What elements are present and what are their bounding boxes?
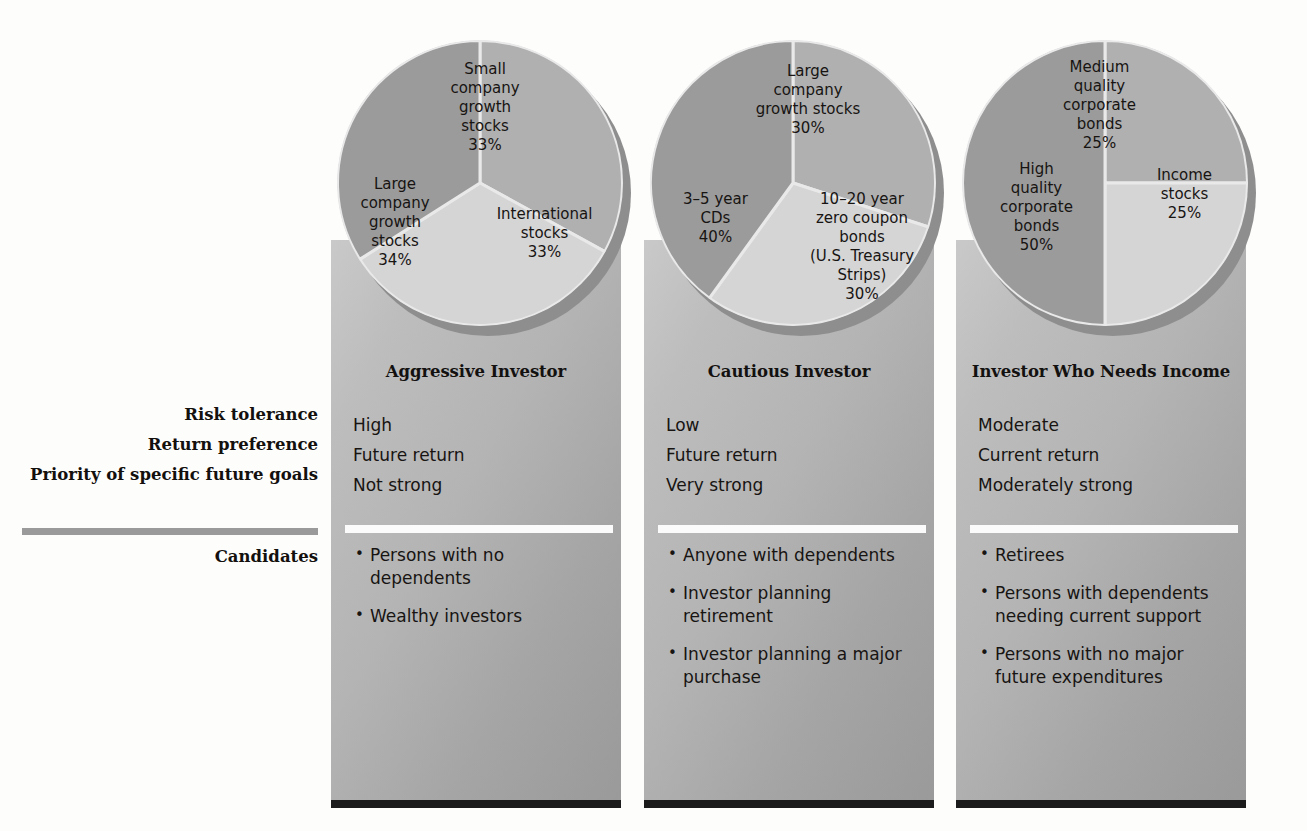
attribute-list-1: High Future return Not strong (353, 410, 607, 500)
panel-title-2: Cautious Investor (644, 362, 934, 381)
pie-label-1-a: Small company growth stocks 33% (430, 60, 540, 155)
row-label-group: Risk tolerance Return preference Priorit… (0, 400, 318, 490)
pie-label-group-3: Medium quality corporate bonds 25% Incom… (962, 40, 1248, 326)
pie-label-2-a: Large company growth stocks 30% (743, 62, 873, 138)
pie-label-3-a: Medium quality corporate bonds 25% (1042, 58, 1157, 153)
candidate-list-1: Persons with no dependents Wealthy inves… (355, 544, 609, 643)
value-return-preference-3: Current return (978, 440, 1232, 470)
list-item: Persons with no major future expenditure… (980, 643, 1234, 689)
pie-label-1-b: International stocks 33% (482, 205, 607, 262)
pie-label-group-2: Large company growth stocks 30% 10–20 ye… (650, 40, 936, 326)
attribute-list-3: Moderate Current return Moderately stron… (978, 410, 1232, 500)
list-item: Retirees (980, 544, 1234, 567)
panel-divider-3 (970, 525, 1238, 533)
row-label-return-preference: Return preference (0, 430, 318, 460)
row-label-risk-tolerance: Risk tolerance (0, 400, 318, 430)
row-label-divider (22, 528, 318, 535)
panel-title-3: Investor Who Needs Income (956, 362, 1246, 381)
list-item: Anyone with dependents (668, 544, 922, 567)
value-return-preference-2: Future return (666, 440, 920, 470)
pie-label-3-c: High quality corporate bonds 50% (984, 160, 1089, 255)
candidate-list-2: Anyone with dependents Investor planning… (668, 544, 922, 704)
row-label-priority: Priority of specific future goals (0, 460, 318, 490)
list-item: Persons with no dependents (355, 544, 609, 590)
list-item: Wealthy investors (355, 605, 609, 628)
list-item: Investor planning retirement (668, 582, 922, 628)
candidate-list-3: Retirees Persons with dependents needing… (980, 544, 1234, 704)
value-return-preference-1: Future return (353, 440, 607, 470)
value-priority-2: Very strong (666, 470, 920, 500)
value-risk-tolerance-2: Low (666, 410, 920, 440)
attribute-list-2: Low Future return Very strong (666, 410, 920, 500)
pie-label-2-b: 10–20 year zero coupon bonds (U.S. Treas… (798, 190, 926, 304)
pie-label-2-c: 3–5 year CDs 40% (663, 190, 768, 247)
panel-divider-1 (345, 525, 613, 533)
pie-label-3-b: Income stocks 25% (1137, 166, 1232, 223)
list-item: Investor planning a major purchase (668, 643, 922, 689)
figure-root: Risk tolerance Return preference Priorit… (0, 0, 1307, 831)
panel-title-1: Aggressive Investor (331, 362, 621, 381)
row-label-candidates: Candidates (0, 547, 318, 566)
value-priority-1: Not strong (353, 470, 607, 500)
pie-label-1-c: Large company growth stocks 34% (345, 175, 445, 270)
value-priority-3: Moderately strong (978, 470, 1232, 500)
value-risk-tolerance-3: Moderate (978, 410, 1232, 440)
value-risk-tolerance-1: High (353, 410, 607, 440)
list-item: Persons with dependents needing current … (980, 582, 1234, 628)
pie-label-group-1: Small company growth stocks 33% Internat… (337, 40, 623, 326)
panel-divider-2 (658, 525, 926, 533)
